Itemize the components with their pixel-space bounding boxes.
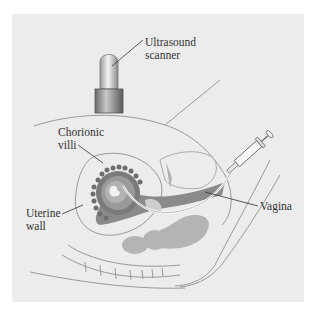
lower-back-outline [30,272,185,288]
label-vagina: Vagina [260,200,292,213]
spine [62,245,180,280]
ultrasound-scanner [95,55,123,114]
label-uterine-line2: wall [26,220,46,232]
label-ultrasound-line1: Ultrasound [145,36,196,48]
ultrasound-leader-line [112,40,143,66]
cvs-diagram: Ultrasound scanner Chorionic villi Uteri… [0,0,315,315]
rectum [122,215,209,254]
uterine-leader-line [62,205,83,214]
label-chorionic-line2: villi [58,139,77,151]
label-chorionic-line1: Chorionic [58,126,104,138]
label-uterine-line1: Uterine [26,207,60,219]
back-outline [165,80,220,125]
label-ultrasound-line2: scanner [145,49,180,61]
syringe [224,128,275,176]
chorionic-leader-line [78,145,103,163]
